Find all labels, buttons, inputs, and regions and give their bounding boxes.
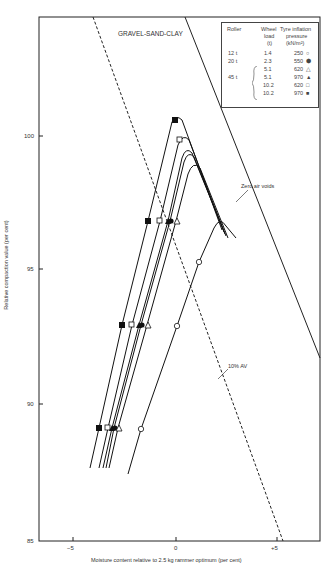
legend-pressure: 620 [294,66,303,72]
legend-row: 45 t 5.1 970 ▲ [222,74,318,82]
legend-pressure: 620 [294,82,303,88]
group-brace-icon [252,66,258,100]
y-tick-100: 100 [24,133,34,139]
legend-box: Roller Wheel load (t) Tyre inflation pre… [221,22,319,108]
legend-roller: 12 t [228,50,237,56]
open-square-icon: □ [306,82,309,88]
legend-load: 5.1 [264,74,272,80]
x-axis-title: Moisture content relative to 2.5 kg ramm… [91,557,242,563]
legend-load: 10.2 [263,82,274,88]
legend-row: 10.2 970 ■ [222,90,318,98]
legend-header-load-unit: (t) [267,40,272,46]
legend-header-pressure-unit: (kN/m²) [286,40,304,46]
curve-12t-1.4-250 [128,221,236,474]
y-tick-85: 85 [27,538,34,544]
legend-pressure: 970 [294,90,303,96]
filled-triangle-icon: ▲ [306,74,311,80]
filled-square-icon: ■ [306,90,309,96]
open-circle-icon: ○ [306,50,309,56]
legend-pressure: 550 [294,58,303,64]
compaction-curves [90,117,236,474]
material-label: GRAVEL-SAND-CLAY [118,30,183,37]
ten-av-pointer [218,369,228,379]
legend-roller: 45 t [228,74,237,80]
legend-header-wheel: Wheel [261,26,277,32]
legend-load: 10.2 [263,90,274,96]
zero-air-voids-pointer [236,190,248,202]
legend-header-pressure: Tyre inflation [280,26,311,32]
markers-open-triangle [116,218,180,431]
curve-20t-2.3-550 [106,154,226,468]
x-tick-0: 0 [174,545,177,551]
legend-load: 2.3 [264,58,272,64]
legend-header-pressure-2: pressure [286,33,307,39]
markers-filled-square [96,117,178,431]
curve-45t-5.1-620 [109,165,228,468]
legend-row: 5.1 620 △ [222,66,318,74]
legend-row: 20 t 2.3 550 ⬢ [222,58,318,66]
legend-row: 10.2 620 □ [222,82,318,90]
y-axis-title: Relative compaction value (per cent) [3,220,9,309]
curve-45t-5.1-970 [103,150,225,468]
legend-pressure: 250 [294,50,303,56]
markers-filled-triangle-hexagon [109,218,174,431]
open-triangle-icon: △ [306,66,311,72]
legend-pressure: 970 [294,74,303,80]
legend-row: 12 t 1.4 250 ○ [222,50,318,58]
legend-header-load: load [264,33,274,39]
legend-load: 5.1 [264,66,272,72]
x-tick-plus5: +5 [271,545,278,551]
filled-hexagon-icon: ⬢ [306,58,311,64]
y-tick-90: 90 [27,401,34,407]
legend-load: 1.4 [264,50,272,56]
curve-45t-10.2-620 [99,137,224,468]
x-tick-minus5: −5 [67,545,74,551]
legend-header-roller: Roller [227,26,241,32]
legend-roller: 20 t [228,58,237,64]
y-tick-95: 95 [27,266,34,272]
ten-av-label: 10% AV [228,363,247,369]
zero-air-voids-label: Zero air voids [241,183,274,189]
